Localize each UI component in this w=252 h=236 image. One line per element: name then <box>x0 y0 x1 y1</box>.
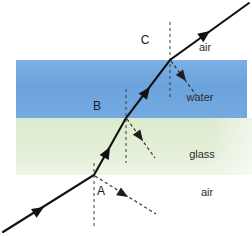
label-air-bottom: air <box>201 186 214 198</box>
point-label-b: B <box>93 99 101 113</box>
label-air-top: air <box>199 41 212 53</box>
point-label-a: A <box>97 184 105 198</box>
label-glass: glass <box>189 148 215 160</box>
media-bands <box>16 60 252 175</box>
diagram-canvas: air water glass air A B C <box>0 0 252 236</box>
optics-refraction-diagram: air water glass air A B C <box>0 0 252 236</box>
ray-arrow-exit <box>197 27 213 42</box>
glass-band-fade <box>16 118 252 175</box>
label-water: water <box>186 91 214 103</box>
point-label-c: C <box>141 33 150 47</box>
reflected-ray-a-arrowhead <box>116 187 130 201</box>
